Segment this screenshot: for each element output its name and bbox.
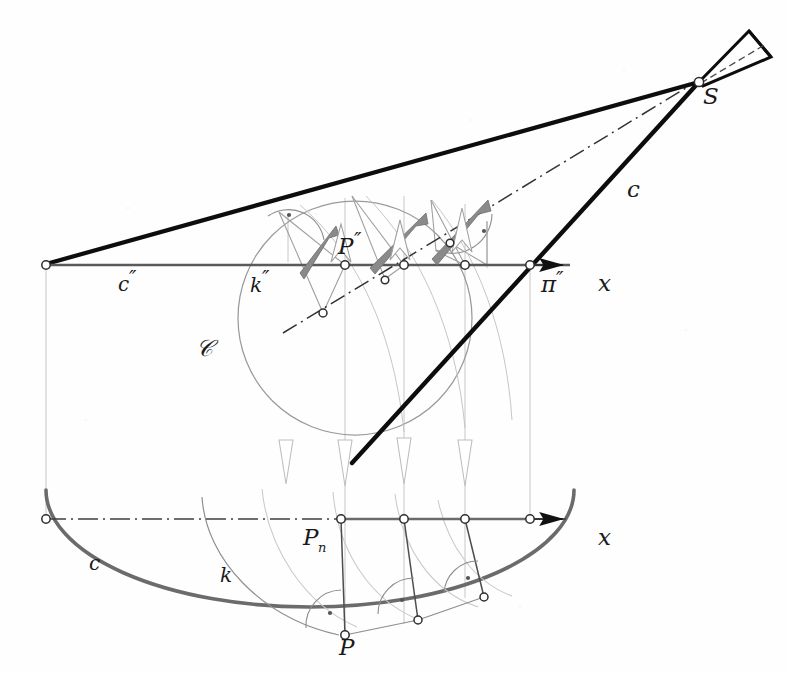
label-Pn: P: [302, 524, 319, 550]
geometry-diagram: S ᴄ π ″ x x c ″ k ″ 𝒞 P ″ c k P n P: [0, 0, 788, 673]
helper-chords-lower: [341, 519, 484, 635]
label-P-double-prime-group: P ″: [337, 228, 362, 259]
label-Pn-group: P n: [302, 524, 326, 555]
label-P2-prime: ″: [354, 228, 362, 252]
label-S-apex: S: [703, 83, 719, 109]
node-markers-lower: [42, 515, 534, 639]
recall-lines: [46, 196, 530, 645]
hollow-arrows-down: [279, 438, 472, 486]
label-pi2: π: [540, 271, 557, 297]
label-k-double-prime-group: k ″: [250, 266, 270, 297]
helper-chords-upper: [279, 196, 487, 313]
cone-axis-line: [283, 52, 745, 333]
label-k-lower: k: [220, 563, 232, 587]
label-Pn-sub: n: [318, 540, 326, 555]
generatrix-upper: [46, 82, 699, 264]
paper-texture: [85, 69, 687, 625]
label-P-lower: P: [338, 634, 355, 660]
label-pi-double-prime-group: π ″: [540, 267, 564, 297]
label-pi2-prime: ″: [556, 267, 564, 291]
figure-canvas: S ᴄ π ″ x x c ″ k ″ 𝒞 P ″ c k P n P: [0, 0, 788, 673]
label-P2: P: [337, 233, 354, 259]
label-c2: c: [118, 272, 129, 296]
label-S-script: 𝒞: [196, 335, 219, 361]
label-k2: k: [250, 273, 262, 297]
cone-body-icon: [699, 31, 771, 86]
label-C-cone: ᴄ: [627, 176, 640, 202]
label-c-lower: c: [89, 551, 100, 575]
label-c2-prime: ″: [129, 266, 137, 290]
label-x-lower: x: [598, 524, 611, 550]
label-x-upper: x: [598, 270, 611, 296]
label-k2-prime: ″: [262, 266, 270, 290]
label-c-double-prime-group: c ″: [118, 266, 137, 296]
